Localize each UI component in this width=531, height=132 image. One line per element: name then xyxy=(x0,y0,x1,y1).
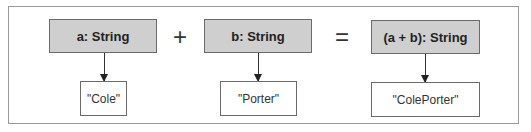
value-box-b: "Porter" xyxy=(220,81,297,116)
arrow-a xyxy=(104,53,105,81)
type-label-result: (a + b): String xyxy=(383,30,467,45)
arrow-b xyxy=(258,53,259,81)
value-label-a: "Cole" xyxy=(87,92,120,106)
type-label-a: a: String xyxy=(77,29,130,44)
value-label-b: "Porter" xyxy=(238,92,279,106)
type-box-a: a: String xyxy=(49,19,157,53)
type-label-b: b: String xyxy=(231,29,284,44)
value-box-a: "Cole" xyxy=(80,81,127,116)
plus-operator: + xyxy=(165,25,195,49)
value-box-result: "ColePorter" xyxy=(371,82,480,117)
type-box-result: (a + b): String xyxy=(371,20,480,54)
value-label-result: "ColePorter" xyxy=(393,93,459,107)
arrow-result xyxy=(425,54,426,82)
equals-operator: = xyxy=(327,25,357,49)
type-box-b: b: String xyxy=(204,19,312,53)
